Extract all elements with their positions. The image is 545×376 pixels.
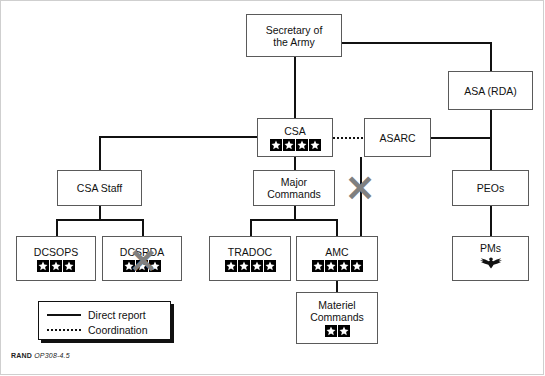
rank-stars-dcsops [37, 260, 75, 272]
connector-asarc-spine [430, 137, 492, 139]
connector-majorcmds-bus [250, 219, 338, 221]
star-icon [225, 260, 237, 272]
node-csa-staff[interactable]: CSA Staff [57, 170, 142, 206]
node-label: Materiel Commands [310, 299, 364, 323]
dotted-line-icon [47, 329, 81, 331]
star-icon [264, 260, 276, 272]
connector-peos-pms [490, 205, 492, 236]
rank-stars-amc [312, 260, 363, 272]
star-icon [251, 260, 263, 272]
node-materiel-commands[interactable]: Materiel Commands [296, 292, 378, 344]
star-icon [325, 325, 337, 337]
star-icon [50, 260, 62, 272]
node-pms[interactable]: PMs [452, 236, 529, 281]
connector-amc-stub [336, 219, 338, 236]
star-icon [338, 260, 350, 272]
star-icon [63, 260, 75, 272]
node-label: CSA Staff [77, 182, 122, 194]
connector-csastaff-bus [56, 219, 144, 221]
node-label: PMs [480, 242, 501, 254]
x-overlay-dcsrda: ✕ [126, 244, 160, 278]
org-chart-diagram: Secretary of the Army ASA (RDA) CSA ASAR… [0, 0, 545, 376]
node-tradoc[interactable]: TRADOC [209, 236, 291, 281]
legend-label: Coordination [88, 324, 148, 336]
node-major-commands[interactable]: Major Commands [253, 170, 335, 206]
connector-tradoc-stub [250, 219, 252, 236]
connector-secarmy-asarda-h [330, 42, 492, 44]
star-icon [325, 260, 337, 272]
connector-csastaff-down [99, 205, 101, 219]
star-icon [270, 139, 282, 151]
rank-stars-materiel [325, 325, 350, 337]
rank-stars-csa [270, 139, 321, 151]
node-label: DCSOPS [34, 246, 78, 258]
credit-document-id: OP308-4.5 [34, 352, 70, 359]
legend-item-coordination: Coordination [47, 322, 162, 337]
node-secretary-of-the-army[interactable]: Secretary of the Army [246, 14, 342, 57]
node-label: Major Commands [267, 176, 321, 200]
star-icon [283, 139, 295, 151]
connector-secarmy-asarda-v [490, 42, 492, 71]
star-icon [338, 325, 350, 337]
node-asarc[interactable]: ASARC [364, 118, 431, 157]
rank-stars-tradoc [225, 260, 276, 272]
node-peos[interactable]: PEOs [452, 170, 529, 206]
eagle-insignia-icon [476, 256, 506, 275]
connector-csa-csastaff-h [99, 136, 261, 138]
node-label: PEOs [477, 182, 504, 194]
connector-secarmy-csa [294, 57, 296, 118]
solid-line-icon [47, 314, 81, 316]
node-amc[interactable]: AMC [296, 236, 378, 281]
star-icon [312, 260, 324, 272]
connector-csa-asarc-coordination [330, 137, 366, 139]
connector-dcsops-stub [56, 219, 58, 236]
node-label: TRADOC [228, 246, 272, 258]
node-label: ASARC [379, 132, 415, 144]
star-icon [37, 260, 49, 272]
credit-line: RAND OP308-4.5 [11, 352, 70, 359]
node-dcsops[interactable]: DCSOPS [16, 236, 96, 281]
legend-label: Direct report [88, 309, 146, 321]
star-icon [296, 139, 308, 151]
connector-asarda-peos [490, 101, 492, 171]
node-label: AMC [325, 246, 348, 258]
node-label: Secretary of the Army [266, 24, 323, 48]
connector-dcsrda-stub [142, 219, 144, 236]
legend: Direct report Coordination [38, 301, 171, 340]
node-asa-rda[interactable]: ASA (RDA) [448, 71, 533, 110]
credit-publisher: RAND [11, 352, 32, 359]
star-icon [238, 260, 250, 272]
star-icon [309, 139, 321, 151]
x-overlay-asarc-link: ✕ [343, 172, 377, 206]
connector-majorcmds-down [294, 205, 296, 219]
connector-amc-materiel [336, 281, 338, 292]
star-icon [351, 260, 363, 272]
legend-item-direct-report: Direct report [47, 307, 162, 322]
connector-csa-csastaff-v [99, 136, 101, 170]
node-label: ASA (RDA) [464, 85, 517, 97]
connector-csa-majorcmds [294, 157, 296, 170]
node-label: CSA [284, 125, 306, 137]
node-csa[interactable]: CSA [257, 118, 333, 157]
